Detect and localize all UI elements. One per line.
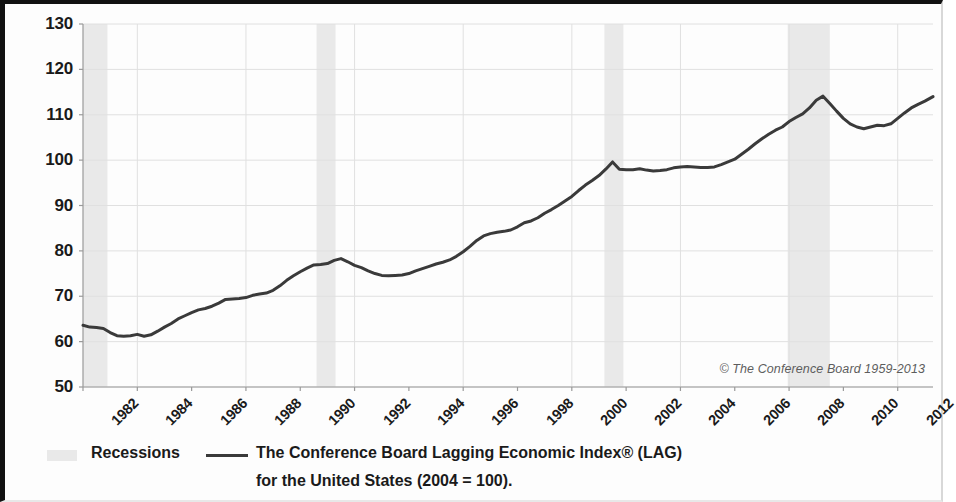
y-axis-tick-label: 120: [31, 59, 73, 79]
legend-label-recessions: Recessions: [91, 444, 180, 462]
y-axis-tick-label: 100: [31, 150, 73, 170]
legend-label-series-line2: for the United States (2004 = 100).: [256, 472, 513, 490]
y-axis-tick-label: 130: [31, 14, 73, 34]
y-axis-tick-label: 80: [31, 241, 73, 261]
legend-row-primary: Recessions The Conference Board Lagging …: [5, 442, 948, 470]
y-axis-tick-label: 70: [31, 286, 73, 306]
lagging-index-line-chart: [5, 4, 948, 502]
y-axis-tick-label: 90: [31, 196, 73, 216]
y-axis-tick-label: 110: [31, 105, 73, 125]
y-axis-tick-label: 50: [31, 377, 73, 397]
series-line-swatch: [206, 454, 248, 457]
recessions-swatch: [47, 450, 77, 461]
y-axis-tick-label: 60: [31, 332, 73, 352]
legend-label-series-line1: The Conference Board Lagging Economic In…: [256, 444, 682, 462]
copyright-notice: © The Conference Board 1959-2013: [719, 362, 925, 376]
axis-ticks-group: [79, 24, 898, 391]
chart-legend: Recessions The Conference Board Lagging …: [5, 442, 948, 470]
